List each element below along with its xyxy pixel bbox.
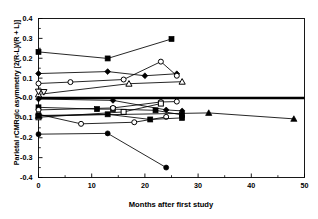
marker-open-circle <box>132 120 137 125</box>
marker-open-circle <box>68 80 73 85</box>
marker-filled-square <box>169 36 174 41</box>
marker-filled-diamond <box>36 71 42 77</box>
marker-filled-circle <box>164 165 169 170</box>
marker-filled-square <box>105 56 110 61</box>
marker-open-circle <box>79 121 84 126</box>
series-subject-13 <box>36 131 169 170</box>
marker-open-circle <box>110 105 115 110</box>
chart-figure: Parietal rCMRglc asymmetry [2(R-L)/(R + … <box>0 0 318 219</box>
marker-filled-square <box>36 49 41 54</box>
marker-filled-square <box>153 108 158 113</box>
data-series-group <box>35 36 297 170</box>
marker-open-square <box>121 109 126 114</box>
series-line <box>39 39 172 58</box>
marker-filled-square <box>180 115 185 120</box>
series-line <box>39 133 167 167</box>
series-subject-4 <box>35 79 185 97</box>
marker-open-circle <box>174 99 179 104</box>
marker-open-circle <box>158 59 163 64</box>
marker-filled-square <box>148 117 153 122</box>
marker-filled-diamond <box>142 73 148 79</box>
marker-open-square <box>158 101 163 106</box>
marker-filled-diamond <box>105 69 111 75</box>
series-line <box>39 82 183 95</box>
series-subject-1 <box>36 36 174 60</box>
marker-filled-circle <box>105 131 110 136</box>
marker-open-circle <box>121 77 126 82</box>
series-subject-2 <box>36 69 180 79</box>
marker-open-circle <box>36 81 41 86</box>
marker-filled-square <box>95 107 100 112</box>
plot-canvas <box>0 0 318 219</box>
marker-open-circle <box>174 73 179 78</box>
marker-filled-circle <box>36 132 41 137</box>
